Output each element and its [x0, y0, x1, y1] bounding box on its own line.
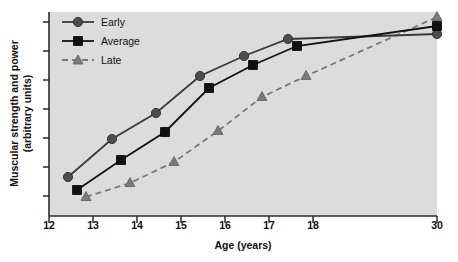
x-tick-label-18: 18	[307, 219, 319, 231]
x-axis-ticks	[49, 216, 437, 223]
x-axis-label: Age (years)	[49, 239, 437, 251]
x-tick-label-17: 17	[263, 219, 275, 231]
legend-label-average: Average	[101, 35, 140, 47]
legend-label-late: Late	[101, 54, 121, 66]
x-tick-label-12: 12	[43, 219, 55, 231]
x-tick-label-14: 14	[131, 219, 143, 231]
y-axis-ticks	[43, 22, 49, 196]
x-tick-label-13: 13	[87, 219, 99, 231]
legend-label-early: Early	[101, 16, 125, 28]
x-tick-label-15: 15	[175, 219, 187, 231]
x-tick-label-30: 30	[431, 219, 443, 231]
chart-figure: Muscular strength and power (arbitrary u…	[0, 0, 458, 262]
x-tick-label-16: 16	[219, 219, 231, 231]
